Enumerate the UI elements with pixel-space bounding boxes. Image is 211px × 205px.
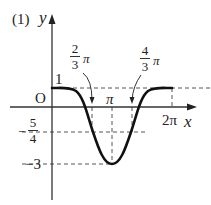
annotation-2-3-pi-numerator: 2 — [72, 42, 79, 55]
annotation-4-3-pi: 4 3 — [140, 44, 150, 73]
x-tick-pi: π — [106, 92, 114, 107]
y-axis-label: y — [39, 9, 47, 26]
origin-label: O — [35, 91, 46, 106]
problem-label: (1) — [12, 12, 30, 27]
arrowhead-4-3pi-icon — [130, 97, 135, 104]
y-tick-neg54-numerator: 5 — [30, 116, 37, 129]
y-tick-neg3: −3 — [25, 157, 41, 172]
annotation-4-3-pi-suffix: π — [153, 54, 160, 67]
y-axis-arrow-icon — [49, 14, 56, 24]
annotation-2-3-pi: 2 3 — [70, 42, 80, 71]
x-tick-2pi: 2π — [162, 113, 177, 128]
arrow-2-3pi-icon — [83, 73, 92, 100]
annotation-4-3-pi-denominator: 3 — [142, 60, 149, 73]
annotation-4-3-pi-numerator: 4 — [142, 44, 149, 57]
guide-lines — [22, 88, 211, 164]
y-tick-neg-5-4: 5 4 — [28, 116, 38, 145]
y-tick-1: 1 — [55, 72, 63, 87]
y-tick-neg54-sign: − — [18, 125, 25, 138]
annotation-2-3-pi-suffix: π — [83, 52, 90, 65]
y-tick-neg54-denominator: 4 — [30, 132, 37, 145]
arrowhead-2-3pi-icon — [90, 97, 95, 104]
x-axis-arrow-icon — [187, 104, 197, 111]
annotation-2-3-pi-denominator: 3 — [72, 58, 79, 71]
x-axis-label: x — [184, 113, 192, 130]
